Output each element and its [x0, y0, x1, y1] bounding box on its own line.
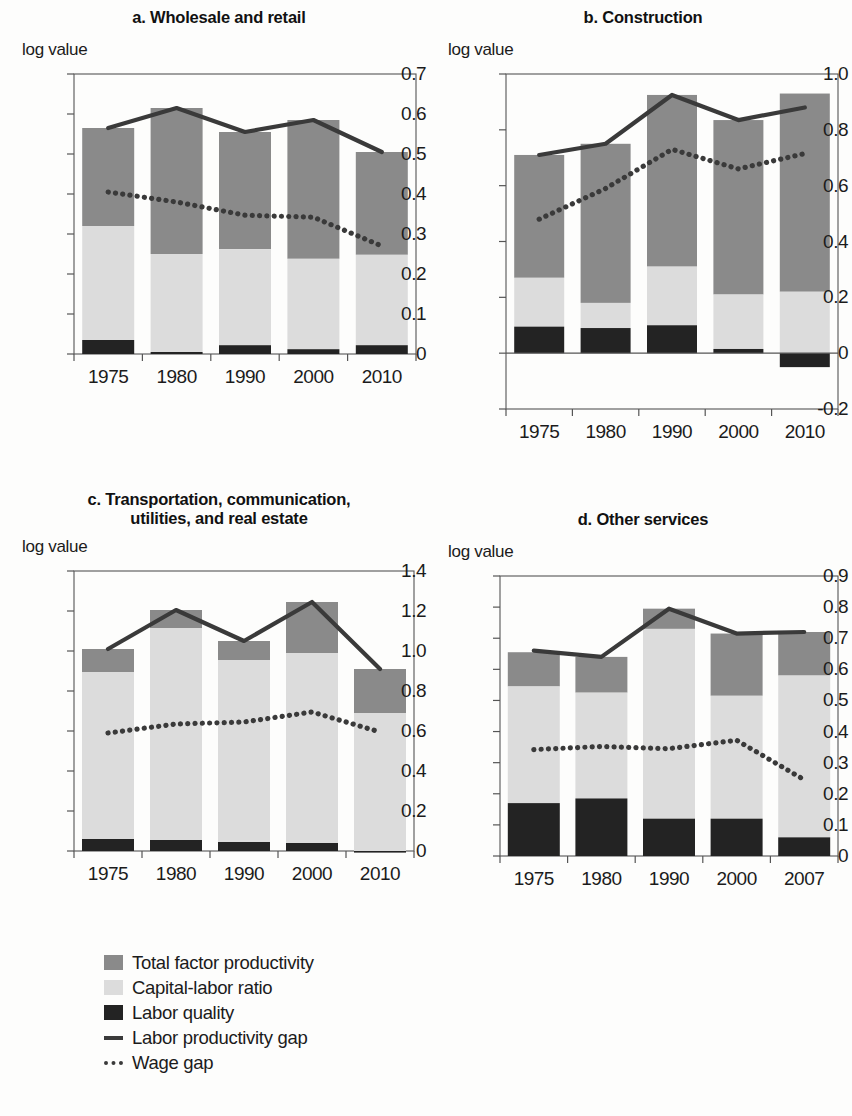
bar-segment-capital-labor: [286, 653, 338, 843]
legend-item-capital-labor: Capital-labor ratio: [104, 975, 314, 1000]
bar-segment-capital-labor: [508, 686, 560, 803]
x-tick-label: 1980: [156, 863, 196, 885]
y-tick-label: 0.7: [798, 627, 848, 649]
bar-segment-capital-labor: [711, 696, 763, 819]
legend-swatch-dotted-line-icon: [104, 1061, 123, 1065]
panel-c-title: c. Transportation, communication, utilit…: [12, 490, 426, 528]
y-tick-label: -0.2: [792, 398, 848, 420]
bar-segment-tfp: [82, 128, 134, 226]
x-tick-label: 2007: [784, 868, 824, 890]
chart-panel-wholesale-retail: a. Wholesale and retail log value 00.10.…: [12, 8, 426, 396]
panel-a-plot: 00.10.20.30.40.50.60.7197519801990200020…: [12, 66, 426, 396]
panel-d-title: d. Other services: [438, 510, 848, 529]
panel-b-plot: -0.200.20.40.60.81.019751980199020002010: [438, 66, 848, 451]
y-tick-label: 0.2: [792, 286, 848, 308]
bar-segment-capital-labor: [219, 249, 271, 345]
panel-d-svg: [438, 568, 848, 898]
legend-label-labor-productivity-gap: Labor productivity gap: [132, 1027, 307, 1049]
x-tick-label: 2010: [785, 421, 825, 443]
bar-segment-labor-quality: [575, 798, 627, 856]
panel-c-ylabel: log value: [22, 537, 426, 557]
bar-segment-labor-quality: [150, 840, 202, 851]
panel-c-plot: 00.20.40.60.81.01.21.4197519801990200020…: [12, 563, 426, 893]
y-tick-label: 0.5: [376, 143, 426, 165]
y-tick-label: 0.3: [798, 752, 848, 774]
y-tick-label: 1.2: [376, 600, 426, 622]
x-tick-label: 1975: [519, 421, 559, 443]
y-tick-label: 0.5: [798, 689, 848, 711]
y-tick-label: 0.4: [376, 183, 426, 205]
legend-swatch-capital-labor-icon: [104, 980, 123, 995]
bar-segment-capital-labor: [82, 672, 134, 839]
y-tick-label: 0.8: [798, 596, 848, 618]
y-tick-label: 0: [376, 840, 426, 862]
x-tick-label: 1975: [88, 863, 128, 885]
y-tick-label: 0.8: [792, 119, 848, 141]
bar-segment-tfp: [575, 657, 627, 693]
bar-segment-labor-quality: [219, 345, 271, 354]
bar-segment-capital-labor: [150, 628, 202, 840]
legend-swatch-tfp-icon: [104, 955, 123, 970]
y-tick-label: 0.2: [376, 800, 426, 822]
bar-segment-tfp: [219, 132, 271, 249]
panel-c-title-line2: utilities, and real estate: [12, 509, 426, 528]
x-tick-label: 1990: [225, 366, 265, 388]
bar-segment-tfp: [508, 652, 560, 686]
bar-segment-labor-quality: [711, 819, 763, 856]
legend-label-labor-quality: Labor quality: [132, 1002, 234, 1024]
bar-segment-tfp: [286, 602, 338, 653]
y-tick-label: 1.4: [376, 560, 426, 582]
bar-segment-labor-quality: [286, 843, 338, 851]
x-tick-label: 1990: [224, 863, 264, 885]
bar-segment-capital-labor: [643, 629, 695, 819]
y-tick-label: 0.1: [798, 814, 848, 836]
x-tick-label: 1990: [652, 421, 692, 443]
legend-label-tfp: Total factor productivity: [132, 952, 314, 974]
x-tick-label: 2010: [360, 863, 400, 885]
panel-c-svg: [12, 563, 426, 893]
legend-item-tfp: Total factor productivity: [104, 950, 314, 975]
bar-segment-tfp: [287, 120, 339, 259]
x-tick-label: 2000: [718, 421, 758, 443]
bar-segment-labor-quality: [82, 839, 134, 851]
x-tick-label: 1980: [581, 868, 621, 890]
bar-segment-tfp: [643, 609, 695, 629]
chart-panel-transportation: c. Transportation, communication, utilit…: [12, 490, 426, 893]
y-tick-label: 0: [376, 343, 426, 365]
bar-segment-labor-quality: [647, 325, 697, 353]
chart-panel-other-services: d. Other services log value 00.10.20.30.…: [438, 510, 848, 898]
y-tick-label: 0.6: [792, 175, 848, 197]
y-tick-label: 0.4: [792, 231, 848, 253]
bar-segment-tfp: [151, 108, 203, 254]
x-tick-label: 1990: [649, 868, 689, 890]
bar-segment-labor-quality: [581, 328, 631, 353]
y-tick-label: 0: [798, 845, 848, 867]
bar-segment-tfp: [218, 641, 270, 660]
y-tick-label: 0.4: [798, 721, 848, 743]
x-tick-label: 1980: [585, 421, 625, 443]
legend-label-wage-gap: Wage gap: [132, 1052, 213, 1074]
y-tick-label: 0: [792, 342, 848, 364]
panel-b-title: b. Construction: [438, 8, 848, 27]
legend-item-labor-productivity-gap: Labor productivity gap: [104, 1025, 314, 1050]
bar-segment-labor-quality: [508, 803, 560, 856]
bar-segment-labor-quality: [643, 819, 695, 856]
bar-segment-tfp: [647, 95, 697, 267]
legend-swatch-labor-quality-icon: [104, 1005, 123, 1020]
legend-swatch-solid-line-icon: [104, 1036, 123, 1040]
y-tick-label: 1.0: [792, 63, 848, 85]
bar-segment-labor-quality: [713, 349, 763, 353]
y-tick-label: 0.2: [798, 783, 848, 805]
x-tick-label: 1975: [88, 366, 128, 388]
x-tick-label: 2000: [716, 868, 756, 890]
panel-c-title-line1: c. Transportation, communication,: [12, 490, 426, 509]
bar-segment-capital-labor: [218, 660, 270, 842]
y-tick-label: 0.4: [376, 760, 426, 782]
chart-panel-construction: b. Construction log value -0.200.20.40.6…: [438, 8, 848, 451]
x-tick-label: 2000: [293, 366, 333, 388]
bar-segment-capital-labor: [581, 303, 631, 328]
panel-a-title: a. Wholesale and retail: [12, 8, 426, 27]
bar-segment-capital-labor: [82, 226, 134, 340]
panel-d-plot: 00.10.20.30.40.50.60.70.80.9197519801990…: [438, 568, 848, 898]
y-tick-label: 0.2: [376, 263, 426, 285]
